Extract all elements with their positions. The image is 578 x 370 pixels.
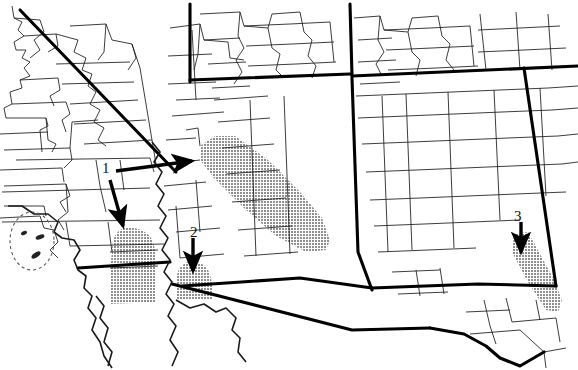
annotation-label-3: 3 [514, 209, 522, 224]
map-canvas [0, 0, 578, 370]
map-figure: 1 2 3 [0, 0, 578, 370]
border-vertical-east [350, 4, 352, 76]
annotation-label-2: 2 [190, 225, 198, 240]
annotation-label-1: 1 [102, 161, 110, 176]
